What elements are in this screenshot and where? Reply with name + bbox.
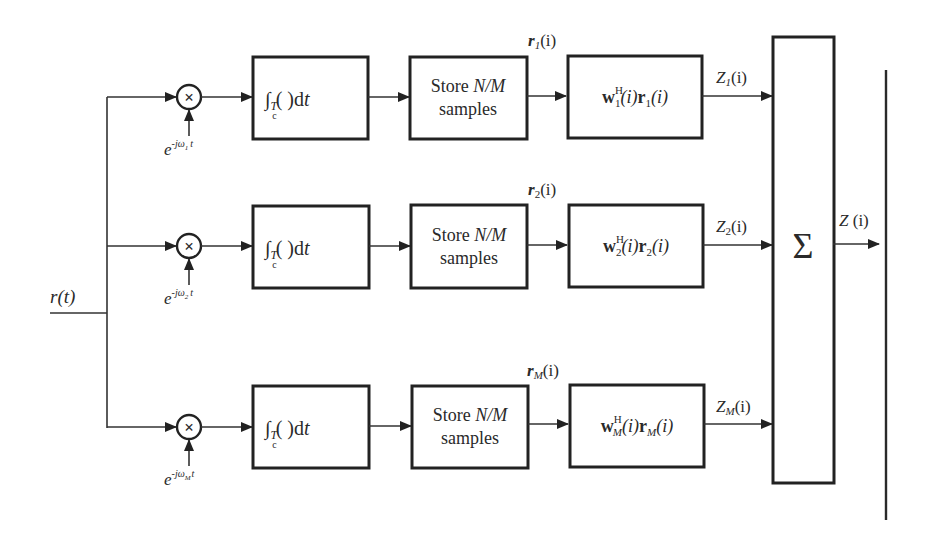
receiver-block-diagram: r(t) × e-jω1t ∫Tc( )dt Store N/M samples… bbox=[0, 0, 931, 542]
weight-m-label: wHM(i)rM(i) bbox=[601, 413, 673, 438]
oscillator-2-label: e-jω2t bbox=[164, 287, 193, 308]
rm-label: rM(i) bbox=[527, 361, 559, 381]
branch-1: × e-jω1t ∫Tc( )dt Store N/M samples r1(i… bbox=[107, 31, 772, 159]
store-block-1 bbox=[410, 57, 527, 139]
store-2-line1: Store N/M bbox=[432, 225, 508, 245]
r2-label: r2(i) bbox=[528, 180, 556, 200]
store-1-line2: samples bbox=[439, 99, 497, 119]
branch-2: × e-jω2t ∫Tc( )dt Store N/M samples r2(i… bbox=[107, 180, 772, 308]
zm-label: ZM(i) bbox=[716, 397, 751, 417]
store-block-m bbox=[412, 386, 528, 468]
store-2-line2: samples bbox=[440, 248, 498, 268]
input-label: r(t) bbox=[50, 286, 75, 308]
r1-label: r1(i) bbox=[528, 31, 556, 51]
weight-1-label: wH1(i)r1(i) bbox=[602, 84, 668, 109]
oscillator-m-label: e-jωMt bbox=[164, 468, 195, 489]
store-1-line1: Store N/M bbox=[431, 76, 507, 96]
multiply-icon: × bbox=[184, 418, 194, 437]
weight-2-label: wH2(i)r2(i) bbox=[603, 233, 669, 258]
z2-label: Z2(i) bbox=[716, 217, 747, 237]
store-block-2 bbox=[411, 205, 527, 288]
output-label: Z (i) bbox=[839, 211, 869, 230]
multiply-icon: × bbox=[184, 237, 194, 256]
z1-label: Z1(i) bbox=[716, 68, 747, 88]
store-m-line1: Store N/M bbox=[433, 405, 509, 425]
store-m-line2: samples bbox=[441, 428, 499, 448]
branch-m: × e-jωMt ∫Tc( )dt Store N/M samples rM(i… bbox=[107, 361, 772, 489]
multiply-icon: × bbox=[184, 88, 194, 107]
oscillator-1-label: e-jω1t bbox=[164, 138, 193, 159]
sigma-symbol: Σ bbox=[793, 226, 814, 266]
